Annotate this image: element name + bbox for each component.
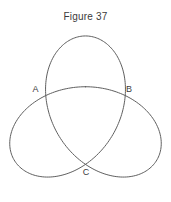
- crossing-label-c: C: [83, 167, 90, 177]
- trefoil-curve: [10, 36, 162, 177]
- crossing-label-a: A: [32, 84, 38, 94]
- crossing-label-b: B: [126, 84, 132, 94]
- figure-37-page: Figure 37 A B C: [0, 0, 171, 202]
- figure-canvas: A B C: [0, 0, 171, 202]
